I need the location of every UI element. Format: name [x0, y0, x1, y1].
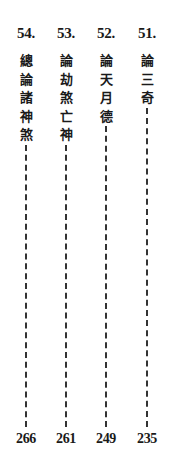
- toc-entry-52[interactable]: 52. 論 天 月 德 249: [86, 0, 126, 471]
- title-char: 論: [60, 52, 73, 71]
- entry-number: 51.: [127, 25, 167, 42]
- entry-title: 論 三 奇: [127, 52, 167, 108]
- dot-leader: [25, 145, 27, 427]
- title-char: 諸: [20, 89, 33, 108]
- title-char: 劫: [60, 71, 73, 90]
- entry-title: 論 劫 煞 亡 神: [46, 52, 86, 145]
- toc-entry-53[interactable]: 53. 論 劫 煞 亡 神 261: [46, 0, 86, 471]
- title-char: 煞: [20, 126, 33, 145]
- title-char: 奇: [141, 89, 154, 108]
- dot-leader: [105, 126, 107, 427]
- entry-number: 53.: [46, 25, 86, 42]
- entry-number: 54.: [6, 25, 46, 42]
- title-char: 月: [100, 89, 113, 108]
- title-char: 亡: [60, 108, 73, 127]
- toc-entry-51[interactable]: 51. 論 三 奇 235: [127, 0, 167, 471]
- page-number: 266: [6, 431, 46, 447]
- title-char: 德: [100, 108, 113, 127]
- entry-number: 52.: [86, 25, 126, 42]
- entry-title: 總 論 諸 神 煞: [6, 52, 46, 145]
- title-char: 論: [20, 71, 33, 90]
- toc-entry-54[interactable]: 54. 總 論 諸 神 煞 266: [6, 0, 46, 471]
- title-char: 神: [60, 126, 73, 145]
- title-char: 三: [141, 71, 154, 90]
- entry-title: 論 天 月 德: [86, 52, 126, 126]
- title-char: 總: [20, 52, 33, 71]
- dot-leader: [65, 145, 67, 427]
- page-number: 235: [127, 431, 167, 447]
- page-number: 249: [86, 431, 126, 447]
- title-char: 天: [100, 71, 113, 90]
- title-char: 論: [141, 52, 154, 71]
- page-number: 261: [46, 431, 86, 447]
- dot-leader: [146, 108, 148, 427]
- title-char: 論: [100, 52, 113, 71]
- title-char: 煞: [60, 89, 73, 108]
- title-char: 神: [20, 108, 33, 127]
- table-of-contents: 54. 總 論 諸 神 煞 266 53. 論 劫 煞 亡 神 261 52. …: [0, 0, 169, 471]
